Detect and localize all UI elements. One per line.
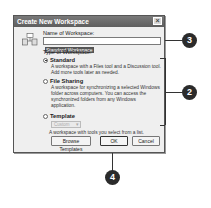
radio-unselected-icon	[43, 114, 48, 119]
callout-bracket-2-top	[160, 58, 165, 59]
radio-template-label: Template	[50, 113, 75, 119]
type-label: Type of Workspace:	[43, 49, 92, 55]
radio-file-sharing[interactable]: File Sharing	[43, 78, 83, 84]
callout-line-4	[112, 153, 113, 171]
radio-standard-label: Standard	[50, 57, 75, 63]
close-button[interactable]: ×	[153, 17, 162, 25]
file-sharing-description: A workspace for synchronizing a selected…	[51, 85, 161, 109]
template-select[interactable]: Custom	[51, 121, 81, 128]
radio-selected-icon	[43, 58, 48, 63]
workspace-icon	[22, 33, 38, 47]
radio-standard[interactable]: Standard	[43, 57, 75, 63]
callout-4: 4	[105, 170, 120, 185]
radio-file-sharing-label: File Sharing	[50, 78, 83, 84]
dialog-title: Create New Workspace	[17, 18, 89, 25]
callout-line-2	[165, 92, 182, 93]
standard-description: A workspace with a Files tool and a Disc…	[51, 64, 161, 76]
callout-bracket-2-bottom	[160, 125, 165, 126]
browse-templates-button[interactable]: Browse Templates	[51, 136, 91, 146]
radio-unselected-icon	[43, 79, 48, 84]
dialog-titlebar: Create New Workspace ×	[14, 16, 164, 27]
ok-button[interactable]: OK	[100, 136, 128, 146]
callout-line-3	[165, 40, 182, 41]
callout-3: 3	[182, 33, 197, 48]
radio-template[interactable]: Template	[43, 113, 75, 119]
cancel-button[interactable]: Cancel	[132, 136, 160, 146]
name-label: Name of Workspace:	[43, 30, 94, 36]
create-workspace-dialog: Create New Workspace × Name of Workspace…	[13, 15, 165, 153]
name-input[interactable]: Standard Workspace	[43, 37, 161, 45]
callout-2: 2	[182, 85, 197, 100]
